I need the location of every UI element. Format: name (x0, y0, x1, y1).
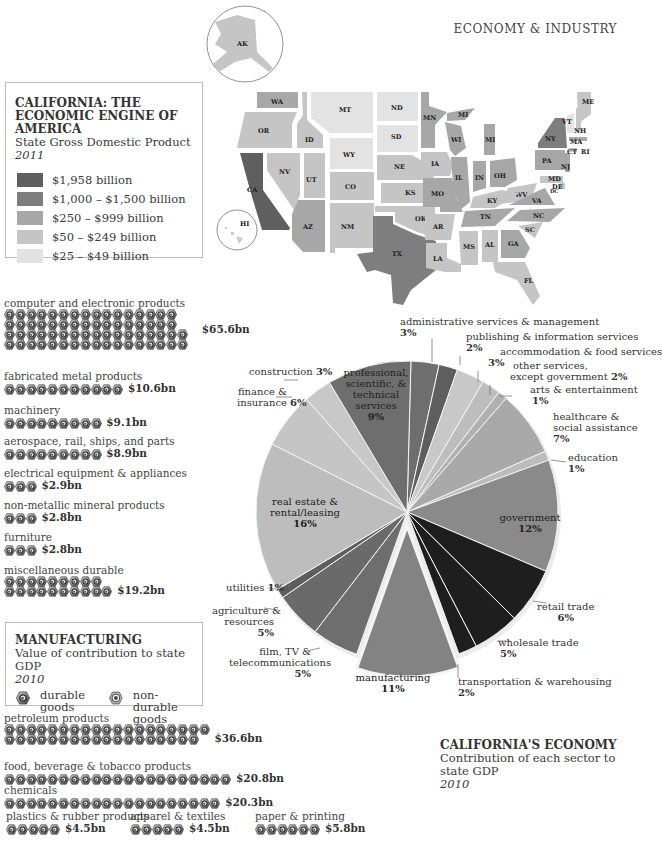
label-pct: 5% (295, 668, 311, 679)
label-pct: 12% (518, 523, 541, 534)
label-transportation: transportation & warehousing2% (458, 676, 612, 698)
label-retail: retail trade6% (537, 601, 594, 623)
label-text: services (336, 400, 416, 411)
economy-year: 2010 (440, 778, 620, 791)
label-professional: professional,scientific, &technicalservi… (336, 367, 416, 422)
label-text: finance & (237, 386, 287, 397)
label-text: government (490, 512, 570, 523)
label-text: rental/leasing (265, 507, 345, 518)
label-construction: construction 3% (249, 366, 332, 377)
label-pct: 2% (466, 342, 482, 353)
label-text: professional, (336, 367, 416, 378)
economy-title: CALIFORNIA'S ECONOMY (440, 738, 620, 752)
label-pct: 1% (268, 582, 284, 593)
label-text: arts & entertainment (530, 384, 638, 395)
label-pct: 1% (568, 463, 584, 474)
label-wholesale: wholesale trade5% (498, 637, 579, 659)
label-education: education1% (568, 452, 618, 474)
label-text: resources (212, 616, 274, 627)
economy-caption: CALIFORNIA'S ECONOMY Contribution of eac… (440, 738, 620, 791)
label-text: technical (336, 389, 416, 400)
label-text: social assistance (553, 422, 638, 433)
label-text: utilities (226, 582, 264, 593)
label-text: insurance (237, 397, 287, 408)
label-text: agriculture & (212, 605, 274, 616)
label-pct: 3% (400, 327, 416, 338)
label-text: education (568, 452, 618, 463)
label-finance: finance &insurance 6% (237, 386, 287, 408)
label-text: film, TV & (229, 646, 311, 657)
label-text: construction (249, 366, 313, 377)
label-text: except government (510, 371, 608, 382)
label-manufacturing: manufacturing11% (353, 672, 433, 694)
label-pct: 11% (381, 683, 404, 694)
label-pct: 1% (530, 395, 548, 406)
label-pct: 6% (290, 397, 306, 408)
label-text: other services, (510, 360, 627, 371)
label-agriculture: agriculture &resources5% (212, 605, 274, 638)
label-pct: 6% (557, 612, 573, 623)
label-text: retail trade (537, 601, 594, 612)
label-pct: 5% (498, 648, 516, 659)
label-text: scientific, & (336, 378, 416, 389)
label-pct: 9% (368, 411, 384, 422)
label-pct: 3% (488, 357, 504, 368)
label-other-services: other services,except government 2% (510, 360, 627, 382)
leader-line (551, 460, 566, 462)
label-text: publishing & information services (466, 331, 638, 342)
label-real-estate: real estate &rental/leasing16% (265, 496, 345, 529)
label-pct: 7% (553, 433, 569, 444)
label-text: telecommunications (229, 657, 311, 668)
label-pct: 2% (458, 687, 474, 698)
label-text: accommodation & food services (488, 346, 662, 357)
label-healthcare: healthcare &social assistance7% (553, 411, 638, 444)
label-text: real estate & (265, 496, 345, 507)
label-film: film, TV &telecommunications5% (229, 646, 311, 679)
label-text: manufacturing (353, 672, 433, 683)
label-text: transportation & warehousing (458, 676, 612, 687)
label-utilities: utilities 1% (226, 582, 284, 593)
label-text: administrative services & management (400, 316, 599, 327)
label-arts: arts & entertainment1% (530, 384, 638, 406)
label-text: healthcare & (553, 411, 638, 422)
label-pct: 5% (258, 627, 274, 638)
label-government: government12% (490, 512, 570, 534)
label-pct: 16% (293, 518, 316, 529)
label-pct: 3% (316, 366, 332, 377)
label-text: wholesale trade (498, 637, 579, 648)
label-pct: 2% (611, 371, 627, 382)
